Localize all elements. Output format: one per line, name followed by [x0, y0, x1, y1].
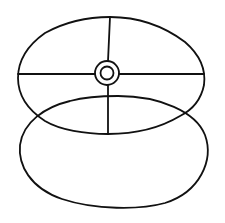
hub-inner-circle [101, 67, 114, 80]
lower-ellipse [20, 96, 208, 208]
two-disc-diagram [0, 0, 225, 223]
diagram-canvas [0, 0, 225, 223]
upper-ellipse [18, 17, 204, 134]
hub-outer-circle [95, 61, 119, 85]
vertical-spoke-top [108, 17, 110, 61]
